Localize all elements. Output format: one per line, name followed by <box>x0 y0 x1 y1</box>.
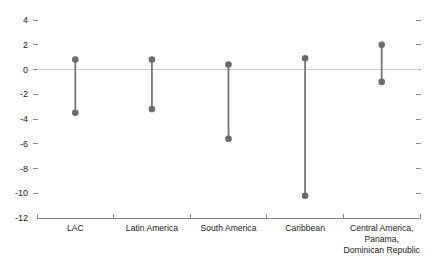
x-axis-category-label: Caribbean <box>285 223 325 233</box>
data-point-high <box>225 61 232 68</box>
x-axis-category-labels: LACLatin AmericaSouth AmericaCaribbeanCe… <box>67 223 421 255</box>
data-point-high <box>302 55 309 62</box>
y-axis-tick-label: -8 <box>20 164 28 174</box>
x-axis-tick-marks <box>114 214 344 218</box>
x-axis-category-label: Central America,Panama,Dominican Republi… <box>343 223 420 255</box>
data-point-low <box>378 79 385 86</box>
y-axis-tick-label: 4 <box>23 15 28 25</box>
y-axis-tick-label: 2 <box>23 40 28 50</box>
y-axis-tick-labels: 420-2-4-6-8-10-12 <box>15 15 28 223</box>
x-axis-category-label: LAC <box>67 223 84 233</box>
data-point-high <box>378 41 385 48</box>
baseline-axis <box>37 214 420 218</box>
y-axis-tick-label: -6 <box>20 139 28 149</box>
x-axis-baseline <box>37 214 420 218</box>
y-axis-tick-label: -10 <box>15 188 28 198</box>
data-point-low <box>149 106 156 113</box>
data-point-high <box>149 56 156 63</box>
y-axis-ticks-right <box>416 20 421 193</box>
x-axis-category-label: South America <box>201 223 257 233</box>
chart-container: 420-2-4-6-8-10-12 LACLatin AmericaSouth … <box>0 0 432 270</box>
y-axis-ticks-left <box>33 20 38 193</box>
x-axis-category-label: Latin America <box>126 223 178 233</box>
data-point-low <box>225 136 232 143</box>
data-point-low <box>302 192 309 199</box>
y-axis-tick-label: 0 <box>23 65 28 75</box>
y-axis-tick-label: -4 <box>20 114 28 124</box>
y-axis-tick-label: -12 <box>15 213 28 223</box>
data-point-high <box>72 56 79 63</box>
y-axis-tick-label: -2 <box>20 89 28 99</box>
dumbbell-chart: 420-2-4-6-8-10-12 LACLatin AmericaSouth … <box>0 0 432 270</box>
data-point-low <box>72 110 79 117</box>
